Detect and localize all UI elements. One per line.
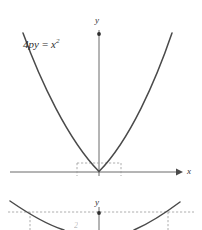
focus-point-dot-icon [97, 32, 101, 36]
parabola-curve [23, 33, 172, 172]
lower-dashed-guides [8, 212, 194, 230]
lower-curve-left-segment [10, 201, 64, 230]
curve-equation-label: 4py=x2 [23, 39, 60, 50]
x-axis-label: x [187, 167, 191, 176]
x-axis-arrow-icon [176, 169, 183, 176]
equation-exponent: 2 [56, 37, 60, 45]
equation-equals: = [39, 38, 51, 50]
lower-partial-figure [8, 201, 194, 230]
y-axis-label: y [95, 16, 99, 25]
parabola-figure: 4py=x2 y x y 2 [0, 0, 202, 230]
lower-y-axis-label: y [95, 198, 99, 207]
lower-curve-right-segment [134, 202, 180, 230]
lower-focus-point-dot-icon [97, 211, 101, 215]
lower-clipped-text: 2 [74, 222, 78, 230]
figure-canvas [0, 0, 202, 230]
main-axes [10, 30, 183, 176]
